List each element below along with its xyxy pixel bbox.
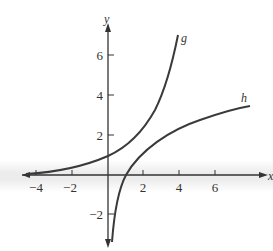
curve-h xyxy=(112,106,250,242)
y-tick-label: −2 xyxy=(89,207,103,222)
y-tick-label: 2 xyxy=(97,128,104,143)
function-graph: −4 −2 2 4 6 6 4 2 −2 y x g h xyxy=(0,0,273,251)
x-tick-label: −4 xyxy=(29,180,43,195)
y-ticks xyxy=(108,55,114,214)
curve-h-label: h xyxy=(241,91,247,105)
x-axis-label: x xyxy=(267,169,273,183)
y-tick-label: 4 xyxy=(97,88,104,103)
x-tick-label: 6 xyxy=(212,180,219,195)
x-tick-label: 2 xyxy=(140,180,147,195)
y-axis-label: y xyxy=(103,12,110,26)
y-axis-down-arrow-icon xyxy=(105,239,111,248)
x-tick-label: 4 xyxy=(176,180,183,195)
x-tick-label: −2 xyxy=(63,180,77,195)
y-tick-label: 6 xyxy=(97,48,104,63)
curve-g-label: g xyxy=(181,31,187,45)
x-axis-right-arrow-icon xyxy=(259,172,268,178)
